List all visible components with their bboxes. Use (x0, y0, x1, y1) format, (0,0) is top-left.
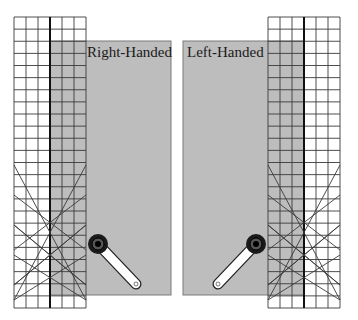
cutter-hub-center (253, 241, 259, 247)
left-handed-label: Left-Handed (187, 45, 264, 60)
left-handed-panel (183, 17, 340, 308)
diagram-canvas (0, 0, 358, 320)
cutter-hub-center (95, 241, 101, 247)
right-handed-label: Right-Handed (87, 45, 172, 60)
right-handed-panel (14, 17, 171, 308)
